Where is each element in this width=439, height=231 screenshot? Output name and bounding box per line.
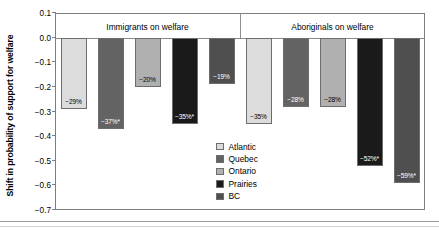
bar-value-label: −29% xyxy=(65,98,82,105)
bar xyxy=(172,38,198,124)
y-tick-mark xyxy=(52,37,56,38)
y-tick-label: −0.5 xyxy=(25,156,51,165)
legend-swatch-icon xyxy=(216,155,224,163)
legend-item-quebec[interactable]: Quebec xyxy=(216,153,258,164)
y-axis-title: Shift in probability of support for welf… xyxy=(0,0,20,231)
bar-value-label: −28% xyxy=(287,96,304,103)
y-tick-mark xyxy=(52,184,56,185)
legend-item-ontario[interactable]: Ontario xyxy=(216,166,258,177)
footer-rule xyxy=(0,221,439,222)
y-tick-mark xyxy=(52,135,56,136)
y-tick-label: −0.4 xyxy=(25,132,51,141)
legend-item-prairies[interactable]: Prairies xyxy=(216,178,258,189)
chart-legend: AtlanticQuebecOntarioPrairiesBC xyxy=(216,141,258,202)
bar-value-label: −19% xyxy=(213,73,230,80)
legend-item-bc[interactable]: BC xyxy=(216,191,258,202)
y-tick-mark xyxy=(52,160,56,161)
bar-value-label: −37%* xyxy=(101,118,120,125)
legend-swatch-icon xyxy=(216,193,224,201)
y-tick-label: 0.1 xyxy=(25,9,51,18)
legend-item-label: BC xyxy=(229,191,241,201)
legend-item-label: Atlantic xyxy=(229,142,256,152)
bar-value-label: −35%* xyxy=(175,113,194,120)
bar-value-label: −28% xyxy=(324,96,341,103)
y-tick-label: 0.0 xyxy=(25,33,51,42)
y-tick-label: −0.2 xyxy=(25,82,51,91)
bar xyxy=(98,38,124,129)
legend-item-label: Quebec xyxy=(229,154,258,164)
y-tick-mark xyxy=(52,209,56,210)
legend-swatch-icon xyxy=(216,143,224,151)
y-tick-label: −0.1 xyxy=(25,58,51,67)
bar xyxy=(246,38,272,124)
bar-value-label: −52%* xyxy=(360,155,379,162)
y-tick-mark xyxy=(52,86,56,87)
legend-item-label: Prairies xyxy=(229,179,257,189)
legend-swatch-icon xyxy=(216,180,224,188)
legend-swatch-icon xyxy=(216,168,224,176)
legend-item-atlantic[interactable]: Atlantic xyxy=(216,141,258,152)
y-tick-label: −0.7 xyxy=(25,206,51,215)
legend-item-label: Ontario xyxy=(229,166,256,176)
group-title: Immigrants on welfare xyxy=(106,22,188,32)
group-separator xyxy=(240,13,241,38)
footer-rule-secondary xyxy=(0,226,439,227)
y-tick-mark xyxy=(52,61,56,62)
bar xyxy=(357,38,383,166)
y-tick-label: −0.6 xyxy=(25,181,51,190)
group-title: Aboriginals on welfare xyxy=(291,22,373,32)
y-tick-mark xyxy=(52,12,56,13)
y-tick-label: −0.3 xyxy=(25,107,51,116)
bar-value-label: −59%* xyxy=(397,172,416,179)
y-tick-mark xyxy=(52,111,56,112)
bar xyxy=(394,38,420,183)
bar-value-label: −35% xyxy=(250,113,267,120)
bar-value-label: −20% xyxy=(139,76,156,83)
